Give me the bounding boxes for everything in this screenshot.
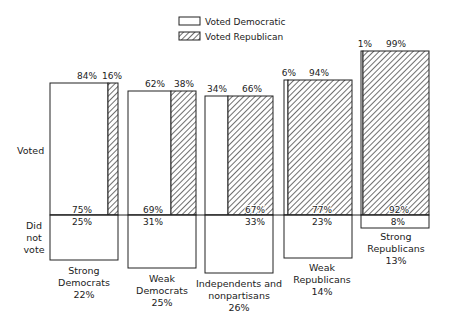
svg-text:84%: 84% bbox=[77, 71, 97, 81]
svg-text:not: not bbox=[26, 232, 42, 243]
svg-text:Strong: Strong bbox=[380, 231, 411, 242]
bar-weak-democrats: 62% 38% 69% 31% Weak Democrats 25% bbox=[128, 79, 196, 308]
svg-text:62%: 62% bbox=[145, 79, 165, 89]
svg-text:26%: 26% bbox=[228, 302, 249, 313]
legend: Voted Democratic Voted Republican bbox=[179, 17, 286, 42]
svg-text:67%: 67% bbox=[245, 205, 265, 215]
svg-text:34%: 34% bbox=[207, 84, 227, 94]
svg-text:8%: 8% bbox=[391, 217, 406, 227]
svg-text:vote: vote bbox=[23, 244, 44, 255]
svg-text:Weak: Weak bbox=[309, 262, 336, 273]
svg-text:6%: 6% bbox=[282, 68, 297, 78]
svg-text:Republicans: Republicans bbox=[293, 274, 350, 285]
svg-text:25%: 25% bbox=[151, 297, 172, 308]
chart-figure: Voted Democratic Voted Republican Voted … bbox=[0, 0, 451, 326]
svg-text:94%: 94% bbox=[309, 68, 329, 78]
svg-text:38%: 38% bbox=[174, 79, 194, 89]
svg-text:1%: 1% bbox=[358, 39, 373, 49]
svg-text:77%: 77% bbox=[312, 205, 332, 215]
legend-swatch-republican bbox=[179, 32, 200, 40]
svg-text:22%: 22% bbox=[73, 289, 94, 300]
svg-text:Weak: Weak bbox=[149, 273, 176, 284]
legend-label-democratic: Voted Democratic bbox=[205, 17, 286, 27]
svg-text:16%: 16% bbox=[102, 71, 122, 81]
svg-text:33%: 33% bbox=[245, 217, 265, 227]
svg-text:23%: 23% bbox=[312, 217, 332, 227]
svg-text:14%: 14% bbox=[311, 286, 332, 297]
svg-text:99%: 99% bbox=[386, 39, 406, 49]
legend-label-republican: Voted Republican bbox=[205, 32, 283, 42]
svg-text:66%: 66% bbox=[242, 84, 262, 94]
svg-text:25%: 25% bbox=[72, 217, 92, 227]
bar-strong-republicans: 1% 99% 92% 8% Strong Republicans 13% bbox=[358, 39, 429, 266]
bar-independents: 34% 66% 67% 33% Independents and nonpart… bbox=[196, 84, 282, 313]
svg-text:13%: 13% bbox=[385, 255, 406, 266]
svg-text:Democrats: Democrats bbox=[58, 277, 110, 288]
svg-text:Independents and: Independents and bbox=[196, 278, 282, 289]
bar-strong-democrats: 84% 16% 75% 25% Strong Democrats 22% bbox=[50, 71, 122, 300]
svg-text:Strong: Strong bbox=[68, 265, 99, 276]
svg-text:31%: 31% bbox=[143, 217, 163, 227]
bar-weak-republicans: 6% 94% 77% 23% Weak Republicans 14% bbox=[282, 68, 352, 297]
svg-text:Republicans: Republicans bbox=[367, 243, 424, 254]
svg-text:Did: Did bbox=[26, 220, 42, 231]
svg-text:nonpartisans: nonpartisans bbox=[208, 290, 270, 301]
svg-text:69%: 69% bbox=[143, 205, 163, 215]
svg-text:92%: 92% bbox=[389, 205, 409, 215]
legend-swatch-democratic bbox=[179, 17, 200, 25]
svg-text:75%: 75% bbox=[72, 205, 92, 215]
row-label-voted: Voted bbox=[17, 145, 44, 156]
svg-text:Democrats: Democrats bbox=[136, 285, 188, 296]
